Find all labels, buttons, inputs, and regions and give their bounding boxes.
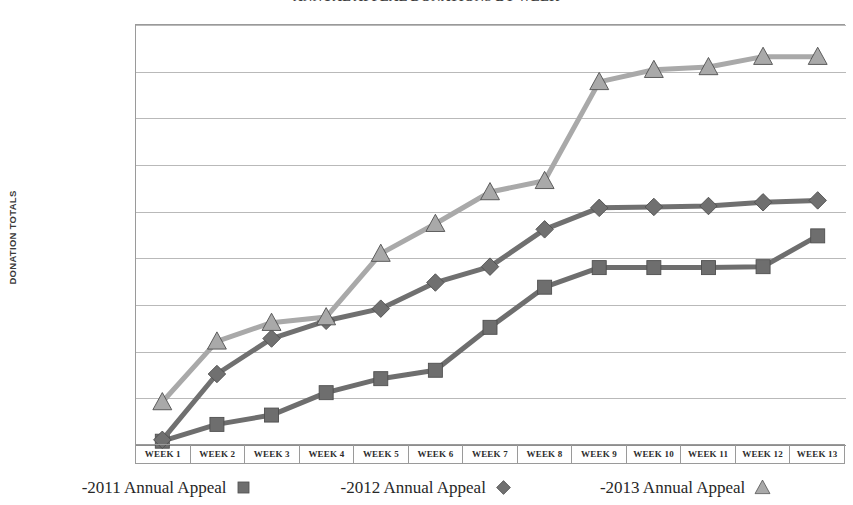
gridline [136,25,846,26]
legend-item[interactable]: -2011 Annual Appeal [82,478,253,498]
plot-area [135,24,845,444]
x-axis-week-cell: WEEK 11 [681,445,736,463]
data-point-square [238,482,249,493]
x-axis-week-cell: WEEK 2 [191,445,246,463]
chart-root: ANNUAL APPEAL DONATIONS BY WEEK DONATION… [0,0,853,505]
data-point-triangle [755,480,770,494]
gridline [136,212,846,213]
x-axis-week-cell: WEEK 10 [627,445,682,463]
gridline [136,305,846,306]
gridline [136,118,846,119]
legend-marker-triangle-icon [754,479,771,496]
legend-item[interactable]: -2013 Annual Appeal [600,478,771,498]
legend-marker-diamond-icon [495,479,512,496]
gridline [136,258,846,259]
x-axis-week-cell: WEEK 4 [300,445,355,463]
legend-marker-square-icon [235,479,252,496]
x-axis-week-cell: WEEK 5 [354,445,409,463]
chart-title: ANNUAL APPEAL DONATIONS BY WEEK [0,0,853,5]
gridline [136,165,846,166]
gridline [136,398,846,399]
x-axis-week-cell: WEEK 12 [736,445,791,463]
x-axis-week-cell: WEEK 13 [790,445,845,463]
y-axis-title: DONATION TOTALS [7,163,18,313]
legend-item[interactable]: -2012 Annual Appeal [340,478,511,498]
legend-label: -2011 Annual Appeal [82,478,227,498]
x-axis-week-cell: WEEK 1 [136,445,191,463]
gridline [136,352,846,353]
x-axis-week-labels: WEEK 1WEEK 2WEEK 3WEEK 4WEEK 5WEEK 6WEEK… [135,444,845,464]
x-axis-week-cell: WEEK 9 [572,445,627,463]
x-axis-week-cell: WEEK 7 [463,445,518,463]
x-axis-week-cell: WEEK 6 [409,445,464,463]
x-axis-week-cell: WEEK 3 [245,445,300,463]
gridline [136,72,846,73]
legend-label: -2012 Annual Appeal [340,478,485,498]
chart-legend: -2011 Annual Appeal-2012 Annual Appeal-2… [0,470,853,505]
x-axis-week-cell: WEEK 8 [518,445,573,463]
data-point-diamond [496,481,510,495]
legend-label: -2013 Annual Appeal [600,478,745,498]
